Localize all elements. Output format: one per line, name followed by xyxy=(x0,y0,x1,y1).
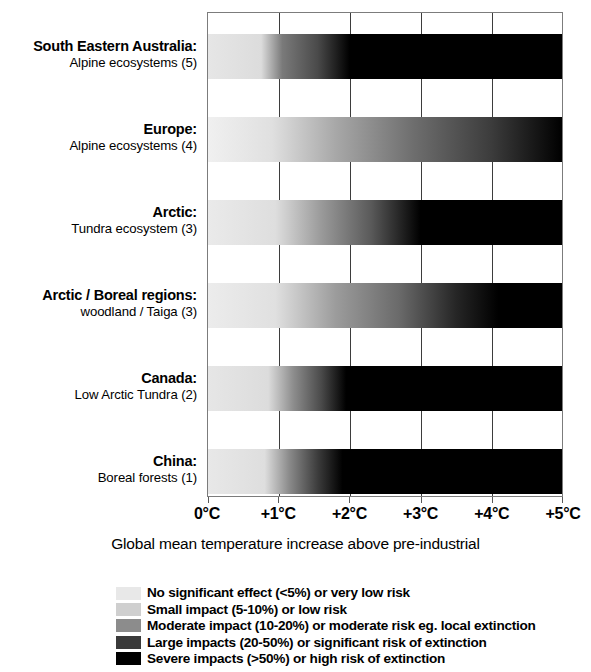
plot-area xyxy=(207,12,563,497)
x-tick xyxy=(208,497,209,503)
x-tick-label: +2°C xyxy=(332,505,367,523)
x-axis-title: Global mean temperature increase above p… xyxy=(0,535,591,553)
ember-bar xyxy=(208,283,562,328)
ember-bar xyxy=(208,117,562,162)
row-label-region: South Eastern Australia: xyxy=(0,38,197,55)
legend-swatch xyxy=(116,619,141,632)
row-label-system: Tundra ecosystem (3) xyxy=(0,221,197,237)
row-label-region: China: xyxy=(0,453,197,470)
legend-swatch xyxy=(116,603,141,616)
row-label-system: Low Arctic Tundra (2) xyxy=(0,387,197,403)
x-tick xyxy=(278,497,279,503)
legend-label: No significant effect (<5%) or very low … xyxy=(147,586,410,600)
burning-embers-chart: South Eastern Australia:Alpine ecosystem… xyxy=(0,0,591,672)
legend-label: Small impact (5-10%) or low risk xyxy=(147,603,347,617)
legend-item: No significant effect (<5%) or very low … xyxy=(116,585,586,601)
gridline-+1°C xyxy=(279,13,280,496)
ember-bar xyxy=(208,34,562,79)
ember-bar xyxy=(208,200,562,245)
row-label: South Eastern Australia:Alpine ecosystem… xyxy=(0,38,197,71)
row-label: China:Boreal forests (1) xyxy=(0,453,197,486)
row-label: Canada:Low Arctic Tundra (2) xyxy=(0,370,197,403)
legend: No significant effect (<5%) or very low … xyxy=(116,585,586,667)
x-tick-label: +3°C xyxy=(403,505,438,523)
row-label: Arctic / Boreal regions:woodland / Taiga… xyxy=(0,287,197,320)
row-label: Arctic:Tundra ecosystem (3) xyxy=(0,204,197,237)
gridline-+3°C xyxy=(421,13,422,496)
row-label-system: Alpine ecosystems (5) xyxy=(0,55,197,71)
row-label-system: Alpine ecosystems (4) xyxy=(0,138,197,154)
x-tick xyxy=(349,497,350,503)
x-tick xyxy=(562,497,563,503)
legend-item: Severe impacts (>50%) or high risk of ex… xyxy=(116,651,586,667)
ember-bar xyxy=(208,366,562,411)
legend-label: Moderate impact (10-20%) or moderate ris… xyxy=(147,619,536,633)
legend-swatch xyxy=(116,636,141,649)
x-tick-label: +5°C xyxy=(546,505,581,523)
legend-item: Moderate impact (10-20%) or moderate ris… xyxy=(116,618,586,634)
row-label-region: Arctic / Boreal regions: xyxy=(0,287,197,304)
gridline-+4°C xyxy=(492,13,493,496)
row-label-system: Boreal forests (1) xyxy=(0,470,197,486)
x-axis-ticks xyxy=(207,497,563,503)
x-tick-label: +4°C xyxy=(474,505,509,523)
ember-bar xyxy=(208,449,562,494)
x-tick xyxy=(492,497,493,503)
legend-label: Severe impacts (>50%) or high risk of ex… xyxy=(147,652,445,666)
row-label-region: Arctic: xyxy=(0,204,197,221)
legend-swatch xyxy=(116,652,141,665)
legend-item: Small impact (5-10%) or low risk xyxy=(116,601,586,617)
row-label: Europe:Alpine ecosystems (4) xyxy=(0,121,197,154)
legend-label: Large impacts (20-50%) or significant ri… xyxy=(147,636,487,650)
x-tick-label: 0°C xyxy=(194,505,220,523)
x-tick-label: +1°C xyxy=(261,505,296,523)
row-label-system: woodland / Taiga (3) xyxy=(0,304,197,320)
legend-swatch xyxy=(116,587,141,600)
row-label-region: Canada: xyxy=(0,370,197,387)
gridline-+2°C xyxy=(350,13,351,496)
legend-item: Large impacts (20-50%) or significant ri… xyxy=(116,634,586,650)
row-label-column: South Eastern Australia:Alpine ecosystem… xyxy=(0,12,197,497)
x-tick xyxy=(421,497,422,503)
row-label-region: Europe: xyxy=(0,121,197,138)
x-axis-tick-labels: 0°C+1°C+2°C+3°C+4°C+5°C xyxy=(207,505,563,529)
